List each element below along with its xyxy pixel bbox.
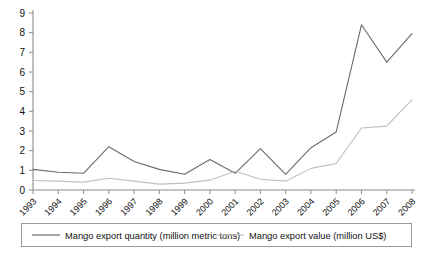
x-tick-label: 2004 [295, 196, 316, 217]
line-chart-canvas: 0123456789 19931994199519961997199819992… [0, 0, 427, 253]
y-tick-label: 7 [19, 47, 25, 58]
x-tick-label: 1997 [118, 196, 139, 217]
y-tick-label: 3 [19, 126, 25, 137]
y-tick-label: 5 [19, 86, 25, 97]
x-axis-ticks: 1993199419951996199719981999200020012002… [17, 190, 417, 218]
x-tick-label: 2006 [346, 196, 367, 217]
series-line-value [33, 100, 412, 185]
x-tick-label: 1995 [68, 196, 89, 217]
x-tick-label: 2005 [320, 196, 341, 217]
y-tick-label: 1 [19, 165, 25, 176]
x-tick-label: 1998 [144, 196, 165, 217]
y-tick-label: 0 [19, 185, 25, 196]
x-tick-label: 2007 [371, 196, 392, 217]
x-tick-label: 2008 [396, 196, 417, 217]
chart-legend: Mango export quantity (million metric to… [22, 224, 412, 247]
legend-label-quantity: Mango export quantity (million metric to… [65, 231, 240, 241]
data-series-group [33, 25, 412, 184]
y-tick-label: 4 [19, 106, 25, 117]
x-tick-label: 2000 [194, 196, 215, 217]
series-line-quantity [33, 25, 412, 174]
x-tick-label: 1994 [42, 196, 63, 217]
x-tick-label: 2002 [245, 196, 266, 217]
y-tick-label: 6 [19, 67, 25, 78]
x-tick-label: 2001 [219, 196, 240, 217]
chart-figure: 0123456789 19931994199519961997199819992… [0, 0, 427, 253]
x-tick-label: 1996 [93, 196, 114, 217]
legend-label-value: Mango export value (million US$) [249, 231, 386, 241]
y-axis-ticks: 0123456789 [19, 8, 33, 196]
y-tick-label: 9 [19, 8, 25, 19]
x-tick-label: 1993 [17, 196, 38, 217]
x-tick-label: 2003 [270, 196, 291, 217]
y-tick-label: 2 [19, 145, 25, 156]
x-tick-label: 1999 [169, 196, 190, 217]
y-tick-label: 8 [19, 27, 25, 38]
